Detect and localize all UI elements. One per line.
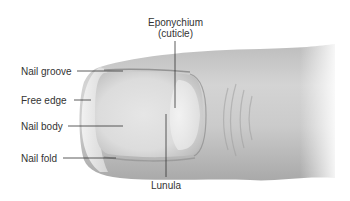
label-nail-fold: Nail fold bbox=[21, 153, 57, 164]
label-eponychium-line2: (cuticle) bbox=[143, 28, 208, 39]
label-nail-body: Nail body bbox=[21, 121, 63, 132]
label-eponychium-line1: Eponychium bbox=[143, 17, 208, 28]
fingernail-diagram: Eponychium (cuticle) Nail groove Free ed… bbox=[0, 0, 350, 201]
label-nail-groove: Nail groove bbox=[21, 66, 72, 77]
label-free-edge: Free edge bbox=[21, 95, 67, 106]
label-lunula: Lunula bbox=[151, 180, 181, 191]
label-eponychium: Eponychium (cuticle) bbox=[143, 17, 208, 39]
